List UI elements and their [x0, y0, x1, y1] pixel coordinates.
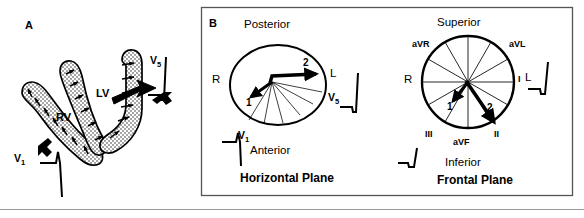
horizontal-vector-2 [270, 74, 316, 83]
frontal-plane-diagram [398, 36, 548, 167]
frontal-vector-2-label: 2 [487, 103, 493, 113]
lead-iii-label: III [425, 130, 433, 139]
horizontal-vector-1 [251, 82, 272, 97]
panel-a-v1-label: V1 [14, 153, 25, 167]
horizontal-v5-ecg-trace [340, 73, 358, 112]
horizontal-v1-label: V1 [238, 130, 249, 144]
panel-a-heart-diagram [22, 50, 172, 197]
frontal-vector-1 [453, 82, 468, 101]
v5-electrode-marker [152, 92, 172, 105]
horizontal-plane-title: Horizontal Plane [240, 172, 334, 184]
horizontal-v5-subscript: 5 [335, 97, 339, 106]
horizontal-vector-1-label: 1 [246, 98, 252, 108]
panel-a-v5-label: V5 [150, 55, 161, 69]
horizontal-vector-2-label: 2 [303, 58, 309, 68]
frontal-left-label: L [525, 72, 531, 84]
horizontal-anterior-label: Anterior [250, 145, 290, 157]
v1-electrode-marker [38, 138, 52, 157]
rv-label: RV [56, 112, 71, 123]
frontal-right-label: R [404, 74, 412, 86]
panel-a-v5-subscript: 5 [157, 60, 161, 69]
frontal-lead-iii-ecg-trace [398, 148, 417, 167]
frontal-plane-title: Frontal Plane [437, 174, 513, 186]
bottom-divider [0, 209, 584, 210]
lv-label: LV [96, 88, 109, 99]
horizontal-plane-fan [249, 82, 322, 124]
panel-a-letter: A [25, 20, 33, 31]
panel-a-v1-letter: V [14, 152, 21, 164]
lead-ii-label: II [494, 130, 499, 139]
avf-label: aVF [453, 138, 470, 147]
avl-label: aVL [509, 40, 526, 49]
horizontal-v5-letter: V [328, 91, 335, 103]
horizontal-v5-label: V5 [328, 92, 339, 106]
panel-a-v5-letter: V [150, 54, 157, 66]
frontal-inferior-label: Inferior [445, 157, 481, 169]
lead-i-label: I [518, 75, 521, 84]
figure-container: A RV LV V1 V5 B Posterior Anterior R L 1… [0, 0, 584, 218]
panel-a-v1-subscript: 1 [21, 158, 25, 167]
frontal-vector-1-label: 1 [447, 102, 453, 112]
horizontal-v1-subscript: 1 [245, 135, 249, 144]
panel-b-letter: B [209, 18, 217, 29]
horizontal-v1-letter: V [238, 129, 245, 141]
horizontal-right-label: R [212, 74, 220, 86]
lv-free-wall [100, 50, 142, 153]
v1-ecg-trace [40, 152, 62, 197]
panel-b-frame [202, 8, 573, 196]
avr-label: aVR [412, 40, 430, 49]
horizontal-left-label: L [330, 68, 336, 80]
horizontal-posterior-label: Posterior [244, 19, 290, 31]
frontal-superior-label: Superior [437, 17, 480, 29]
